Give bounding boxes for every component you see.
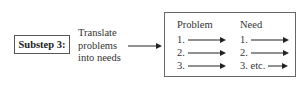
substep-label: Substep 3: — [19, 39, 66, 50]
arrow-right-icon — [128, 43, 162, 49]
column-header-problem: Problem — [177, 19, 213, 30]
arrow-right-icon — [188, 50, 226, 56]
arrow-right-icon — [188, 37, 226, 43]
need-item: 3. etc. — [240, 60, 288, 71]
step-description: Translate problems into needs — [78, 27, 121, 65]
need-item: 2. — [240, 47, 289, 58]
substep-label-box: Substep 3: — [14, 35, 70, 54]
column-header-need: Need — [240, 19, 262, 30]
problem-need-box: Problem Need 1. 2. 3. 1. 2. 3. etc. — [164, 12, 296, 77]
description-line: problems — [78, 40, 121, 53]
problem-item: 2. — [177, 47, 226, 58]
problem-item: 3. — [177, 60, 226, 71]
description-line: Translate — [78, 27, 121, 40]
need-item: 1. — [240, 34, 289, 45]
problem-item: 1. — [177, 34, 226, 45]
description-line: into needs — [78, 52, 121, 65]
arrow-right-icon — [268, 63, 288, 69]
arrow-right-icon — [251, 37, 289, 43]
arrow-right-icon — [188, 63, 226, 69]
arrow-right-icon — [251, 50, 289, 56]
